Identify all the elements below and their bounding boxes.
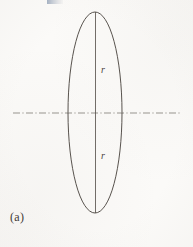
panel-caption: (a) xyxy=(10,211,24,223)
diagram-canvas xyxy=(0,0,193,247)
radius-label-lower: r xyxy=(101,151,105,161)
radius-label-upper: r xyxy=(101,65,105,75)
ellipse-outline xyxy=(68,12,122,213)
figure-panel-a: r r (a) xyxy=(0,0,193,247)
